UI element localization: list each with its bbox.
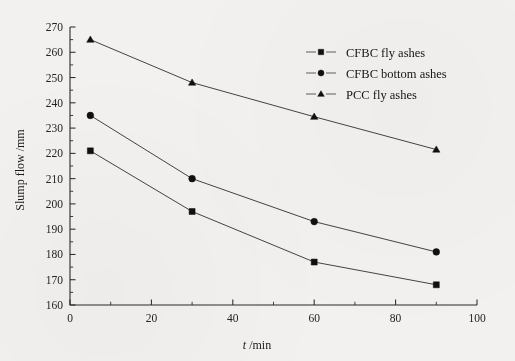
y-tick-label: 160 <box>46 299 64 311</box>
chart-figure: 1601701801902002102202302402502602700204… <box>0 0 515 361</box>
y-axis-title: Slump flow /mm <box>13 129 27 211</box>
y-tick-label: 210 <box>46 173 64 185</box>
chart-background <box>0 0 515 361</box>
y-tick-label: 220 <box>46 147 64 159</box>
y-tick-label: 260 <box>46 46 64 58</box>
circle-marker-icon <box>311 218 318 225</box>
y-tick-label: 200 <box>46 198 64 210</box>
y-tick-label: 240 <box>46 97 64 109</box>
square-marker-icon <box>433 282 439 288</box>
x-tick-label: 80 <box>390 312 402 324</box>
square-marker-icon <box>311 259 317 265</box>
legend-label: CFBC fly ashes <box>346 46 425 60</box>
y-tick-label: 170 <box>46 274 64 286</box>
y-tick-label: 270 <box>46 21 64 33</box>
x-tick-label: 40 <box>227 312 239 324</box>
y-tick-label: 230 <box>46 122 64 134</box>
x-tick-label: 20 <box>146 312 158 324</box>
line-chart-svg: 1601701801902002102202302402502602700204… <box>0 0 515 361</box>
x-axis-title: t /min <box>243 338 271 352</box>
x-tick-label: 0 <box>67 312 73 324</box>
circle-marker-icon <box>87 112 94 119</box>
legend-label: CFBC bottom ashes <box>346 67 447 81</box>
x-tick-label: 60 <box>308 312 320 324</box>
circle-marker-icon <box>433 249 440 256</box>
y-tick-label: 180 <box>46 248 64 260</box>
circle-marker-icon <box>318 70 324 76</box>
circle-marker-icon <box>189 175 196 182</box>
y-tick-label: 250 <box>46 72 64 84</box>
x-axis-title-unit: /min <box>246 338 271 352</box>
square-marker-icon <box>189 208 195 214</box>
square-marker-icon <box>318 49 323 54</box>
legend-label: PCC fly ashes <box>346 88 417 102</box>
y-tick-label: 190 <box>46 223 64 235</box>
square-marker-icon <box>87 148 93 154</box>
x-tick-label: 100 <box>468 312 486 324</box>
